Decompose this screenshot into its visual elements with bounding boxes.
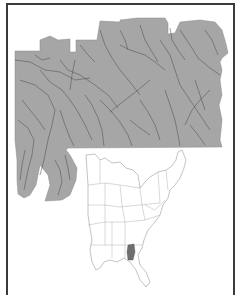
highlighted-watershed: [127, 244, 135, 260]
inset-map-eastern-us: [86, 150, 186, 287]
